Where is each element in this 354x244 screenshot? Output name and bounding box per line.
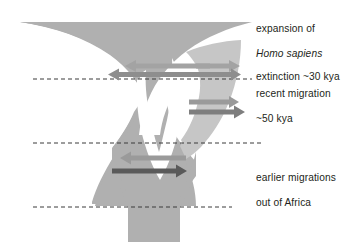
label-earlier-migrations-line2: out of Africa [256,197,311,208]
label-earlier-migrations: earlier migrations out of Africa [256,160,336,210]
label-expansion-line2: Homo sapiens [256,48,322,59]
label-recent-migration-line1: recent migration [256,88,331,99]
label-recent-migration: recent migration ~50 kya [256,76,331,126]
migration-funnel-diagram: expansion of Homo sapiens extinction ~30… [0,0,354,244]
label-recent-migration-line2: ~50 kya [256,113,293,124]
label-expansion-of-homo-sapiens: expansion of Homo sapiens [256,11,322,61]
label-expansion-line1: expansion of [256,23,315,34]
label-earlier-migrations-line1: earlier migrations [256,172,336,183]
